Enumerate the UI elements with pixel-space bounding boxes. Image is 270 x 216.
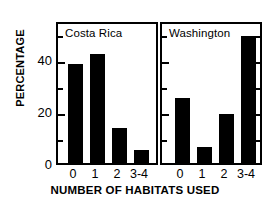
y-tick-major-20 bbox=[253, 114, 260, 116]
x-tick-label-washington-1: 1 bbox=[199, 168, 206, 181]
y-tick-minor-50 bbox=[255, 36, 260, 38]
bar-washington-1 bbox=[197, 147, 212, 163]
bar-costa-rica-1 bbox=[90, 54, 105, 163]
y-tick-label-20: 20 bbox=[30, 106, 52, 119]
y-tick-major-20 bbox=[162, 114, 169, 116]
y-tick-minor-10 bbox=[255, 140, 260, 142]
x-tick-label-costa-rica-2: 2 bbox=[114, 168, 121, 181]
bar-washington-3-4 bbox=[241, 36, 256, 163]
y-tick-minor-30 bbox=[162, 88, 167, 90]
bar-costa-rica-3-4 bbox=[134, 150, 149, 163]
y-tick-minor-30 bbox=[58, 88, 63, 90]
bar-costa-rica-0 bbox=[68, 64, 83, 163]
y-tick-major-20 bbox=[58, 114, 65, 116]
x-tick-label-washington-3-4: 3-4 bbox=[237, 168, 255, 181]
y-tick-minor-10 bbox=[162, 140, 167, 142]
y-tick-minor-50 bbox=[162, 36, 167, 38]
panel-costa-rica: Costa Rica bbox=[56, 22, 156, 165]
y-tick-label-0: 0 bbox=[30, 158, 52, 171]
x-tick-label-washington-0: 0 bbox=[177, 168, 184, 181]
y-tick-minor-30 bbox=[255, 88, 260, 90]
y-tick-minor-10 bbox=[58, 140, 63, 142]
x-tick-label-costa-rica-0: 0 bbox=[70, 168, 77, 181]
y-tick-major-40 bbox=[58, 62, 65, 64]
x-tick-label-costa-rica-3-4: 3-4 bbox=[130, 168, 148, 181]
bar-washington-0 bbox=[175, 98, 190, 163]
x-axis-label: NUMBER OF HABITATS USED bbox=[0, 184, 270, 196]
x-tick-label-costa-rica-1: 1 bbox=[92, 168, 99, 181]
y-axis-label: PERCENTAGE bbox=[14, 10, 26, 126]
bar-costa-rica-2 bbox=[112, 128, 127, 163]
bar-group-washington bbox=[162, 24, 260, 163]
bar-washington-2 bbox=[219, 114, 234, 163]
x-tick-label-washington-2: 2 bbox=[221, 168, 228, 181]
figure: PERCENTAGE 40 20 0 Costa Rica Washington… bbox=[0, 0, 270, 216]
y-tick-label-40: 40 bbox=[30, 54, 52, 67]
bar-group-costa-rica bbox=[58, 24, 156, 163]
x-axis-tick-labels: 0123-40123-4 bbox=[56, 168, 262, 184]
panel-washington: Washington bbox=[160, 22, 262, 165]
plot-area: Costa Rica Washington bbox=[56, 22, 262, 165]
y-tick-minor-50 bbox=[58, 36, 63, 38]
y-tick-major-40 bbox=[253, 62, 260, 64]
y-tick-major-40 bbox=[162, 62, 169, 64]
figure-caption bbox=[4, 205, 268, 213]
